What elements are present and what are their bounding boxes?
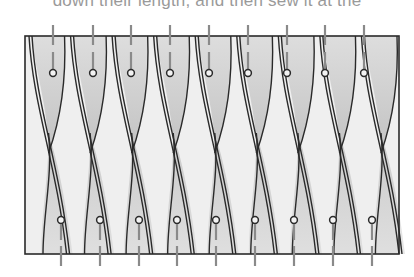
twisted-strips-diagram	[0, 0, 414, 277]
